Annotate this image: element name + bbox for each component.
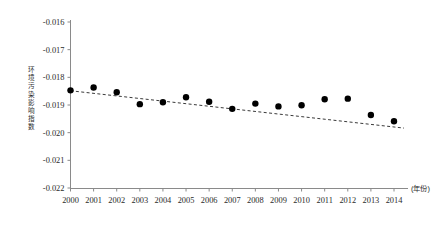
x-tick-label: 2009 [270,196,287,205]
data-point [67,87,73,93]
data-point [391,118,397,124]
y-tick-label: -0.021 [43,156,65,165]
data-point [114,89,120,95]
x-tick-label: 2010 [293,196,310,205]
x-axis-title: (年份) [411,184,430,193]
trendline [71,91,405,128]
x-tick-label: 2014 [386,196,404,205]
data-point [229,106,235,112]
x-tick-label: 2002 [108,196,125,205]
data-point-series [67,84,397,124]
x-tick-label: 2013 [363,196,380,205]
data-point [160,99,166,105]
x-tick-label: 2012 [339,196,356,205]
data-point [137,101,143,107]
x-tick-label: 2001 [85,196,102,205]
y-axis-title: 环境污染影响指数 [28,66,35,131]
data-point [206,98,212,104]
data-point [368,112,374,118]
data-point [321,96,327,102]
x-tick-label: 2011 [316,196,332,205]
y-tick-label: -0.017 [43,46,65,55]
x-tick-label: 2008 [247,196,264,205]
x-tick-label: 2004 [155,196,173,205]
x-axis-tick-labels: 2000200120022003200420052006200720082009… [62,196,403,205]
y-tick-label: -0.022 [43,184,65,193]
x-tick-label: 2003 [131,196,148,205]
data-point [90,84,96,90]
data-point [183,94,189,100]
y-tick-label: -0.020 [43,129,65,138]
axes-group [71,20,409,189]
y-tick-label: -0.016 [43,18,65,27]
data-point [298,102,304,108]
chart-canvas: -0.016-0.017-0.018-0.019-0.020-0.021-0.0… [0,0,447,228]
environment-pollution-index-chart: -0.016-0.017-0.018-0.019-0.020-0.021-0.0… [0,0,447,228]
y-tick-label: -0.018 [43,73,65,82]
data-point [252,100,258,106]
y-axis-tick-labels: -0.016-0.017-0.018-0.019-0.020-0.021-0.0… [43,18,65,193]
x-tick-label: 2007 [224,196,241,205]
y-tick-label: -0.019 [43,101,65,110]
x-tick-label: 2000 [62,196,79,205]
data-point [275,103,281,109]
data-point [345,95,351,101]
x-tick-label: 2006 [201,196,218,205]
x-tick-label: 2005 [178,196,195,205]
